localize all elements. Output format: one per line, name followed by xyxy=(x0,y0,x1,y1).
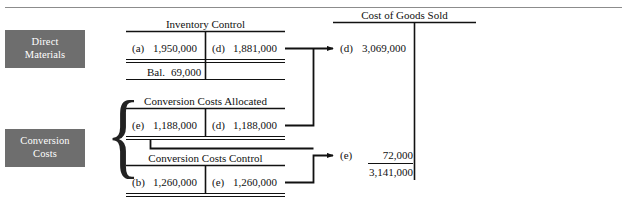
category-box-direct-materials: Direct Materials xyxy=(5,30,85,68)
account-title-conversion-costs-allocated: Conversion Costs Allocated xyxy=(126,96,285,107)
inventory-control-credit-ref: (d) xyxy=(212,43,225,54)
inventory-control-balance-label: Bal. xyxy=(147,67,165,78)
cc-control-debit-amount: 1,260,000 xyxy=(153,177,197,188)
flow-cc-allocated-to-cogs xyxy=(285,49,314,126)
cc-allocated-credit-ref: (d) xyxy=(212,120,225,131)
cogs-entry-e-amount: 72,000 xyxy=(363,150,413,161)
diagram-lines-layer xyxy=(0,0,627,213)
inventory-control-debit-ref: (a) xyxy=(132,43,144,54)
inventory-control-balance-amount: 69,000 xyxy=(171,67,201,78)
t-account-flow-diagram: Direct Materials Conversion Costs { Inve… xyxy=(0,0,627,213)
cc-allocated-debit-ref: (e) xyxy=(132,120,144,131)
cogs-total-amount: 3,141,000 xyxy=(355,167,413,178)
cc-control-debit-ref: (b) xyxy=(132,177,145,188)
cc-control-credit-amount: 1,260,000 xyxy=(233,177,277,188)
cc-control-credit-ref: (e) xyxy=(212,177,224,188)
category-box-conversion-costs: Conversion Costs xyxy=(5,129,85,167)
cogs-entry-e-ref: (e) xyxy=(340,150,352,161)
cc-allocated-debit-amount: 1,188,000 xyxy=(153,120,197,131)
cogs-entry-d-amount: 3,069,000 xyxy=(362,43,406,54)
category-label-line-1: Conversion xyxy=(20,135,69,148)
account-title-cost-of-goods-sold: Cost of Goods Sold xyxy=(333,10,476,21)
inventory-control-credit-amount: 1,881,000 xyxy=(233,43,277,54)
cc-allocated-credit-amount: 1,188,000 xyxy=(233,120,277,131)
cogs-entry-d-ref: (d) xyxy=(340,43,353,54)
category-label-line-2: Costs xyxy=(33,148,57,161)
flow-cc-control-to-cogs xyxy=(285,156,333,183)
account-title-conversion-costs-control: Conversion Costs Control xyxy=(126,153,285,164)
category-label-line-1: Direct xyxy=(32,36,59,49)
account-title-inventory-control: Inventory Control xyxy=(126,19,285,30)
inventory-control-debit-amount: 1,950,000 xyxy=(153,43,197,54)
category-label-line-2: Materials xyxy=(25,49,66,62)
flow-cc-allocated-to-cc-control xyxy=(151,140,314,149)
